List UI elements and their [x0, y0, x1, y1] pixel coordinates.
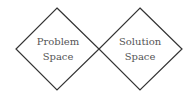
solution-space-shape — [99, 8, 182, 90]
problem-space-shape — [16, 8, 99, 90]
solution-space-label-line2: Space — [125, 51, 156, 62]
problem-space-label-line2: Space — [43, 51, 74, 62]
problem-space-diamond: Problem Space — [16, 8, 99, 90]
solution-space-label-line1: Solution — [119, 36, 162, 47]
problem-space-label-line1: Problem — [37, 36, 80, 47]
solution-space-diamond: Solution Space — [99, 8, 182, 90]
diagram-canvas: Problem Space Solution Space — [0, 0, 194, 98]
